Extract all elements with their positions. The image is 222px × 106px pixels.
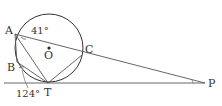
label-o: O (44, 49, 53, 62)
geometry-diagram: A B C T P O 41° 124° (0, 0, 222, 106)
angle-arc-a (21, 37, 26, 39)
segment-tc (48, 55, 82, 83)
angle-label-124: 124° (16, 88, 40, 99)
label-b: B (7, 61, 15, 74)
label-c: C (85, 43, 93, 56)
label-t: T (44, 86, 52, 99)
angle-label-41: 41° (31, 25, 49, 36)
label-a: A (4, 24, 14, 37)
label-p: P (208, 77, 216, 90)
segment-bt (17, 62, 48, 83)
